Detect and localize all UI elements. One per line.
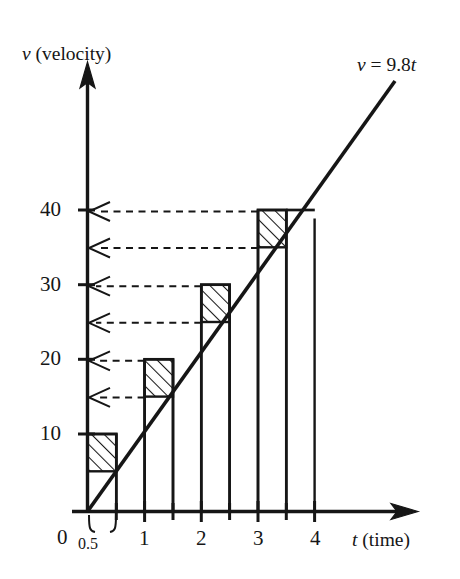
equation-lhs: v	[357, 54, 366, 75]
y-axis-title-variable: v	[22, 43, 31, 64]
guide-arrow-30	[89, 277, 201, 296]
y-tick-label-20: 20	[40, 348, 61, 369]
origin-label: 0	[57, 527, 68, 548]
y-tick-label-30: 30	[40, 274, 61, 295]
x-tick-label-4: 4	[310, 528, 321, 549]
guide-arrow-15	[89, 388, 145, 407]
y-tick-label-10: 10	[40, 423, 61, 444]
x-axis	[72, 504, 418, 520]
half-interval-brace	[89, 515, 116, 532]
guide-arrow-25	[89, 313, 201, 332]
riemann-rectangle-2	[145, 359, 173, 511]
x-brace-label-half: 0.5	[78, 536, 98, 552]
y-axis-title: v (velocity)	[22, 44, 111, 64]
x-axis-title-rest: (time)	[357, 529, 410, 550]
guide-arrow-20	[89, 351, 145, 370]
y-axis-title-rest: (velocity)	[31, 43, 112, 64]
velocity-line	[88, 81, 396, 512]
equation-label: v = 9.8t	[357, 55, 416, 75]
guide-arrow-40	[89, 202, 258, 221]
velocity-time-figure: v (velocity) v = 9.8t 40 30 20 10 0 0.5 …	[0, 0, 460, 579]
equation-rhs: t	[411, 54, 416, 75]
x-tick-label-2: 2	[196, 528, 207, 549]
riemann-rectangle-1	[88, 434, 117, 512]
x-tick-label-1: 1	[139, 528, 150, 549]
y-tick-label-40: 40	[40, 199, 61, 220]
equation-mid: = 9.8	[366, 54, 411, 75]
x-axis-title: t (time)	[352, 530, 410, 550]
guide-arrow-35	[89, 239, 258, 258]
x-tick-label-3: 3	[253, 528, 264, 549]
chart-canvas	[0, 0, 460, 579]
